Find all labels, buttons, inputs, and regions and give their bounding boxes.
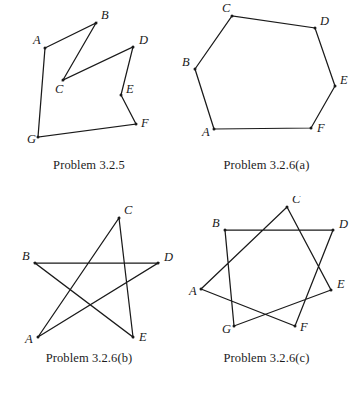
vertex-label-a: A bbox=[188, 284, 197, 298]
vertex-label-d: D bbox=[163, 250, 173, 264]
vertex-point-a bbox=[44, 47, 47, 50]
vertex-point-c bbox=[286, 206, 289, 209]
vertex-label-d: D bbox=[319, 14, 329, 28]
vertex-point-g bbox=[37, 136, 40, 139]
vertex-point-e bbox=[330, 289, 333, 292]
vertex-label-e: E bbox=[336, 277, 345, 291]
vertex-point-a bbox=[37, 336, 40, 339]
vertex-label-e: E bbox=[339, 73, 348, 87]
vertex-point-e bbox=[132, 336, 135, 339]
figure-outline bbox=[201, 207, 333, 326]
vertex-point-f bbox=[294, 325, 297, 328]
vertex-label-b: B bbox=[101, 8, 109, 22]
vertex-point-f bbox=[310, 127, 313, 130]
figure-outline bbox=[35, 218, 158, 337]
vertex-label-b: B bbox=[22, 249, 30, 263]
vertex-point-b bbox=[224, 229, 227, 232]
vertex-label-c: C bbox=[292, 196, 301, 206]
vertex-point-d bbox=[132, 46, 135, 49]
vertex-label-c: C bbox=[55, 82, 64, 96]
vertex-label-b: B bbox=[182, 55, 190, 69]
vertex-point-d bbox=[332, 229, 335, 232]
vertex-point-b bbox=[95, 22, 98, 25]
figure-grid: ABCDEFG Problem 3.2.5 ABCDEF Problem 3.2… bbox=[0, 0, 355, 393]
vertex-label-a: A bbox=[32, 33, 41, 47]
vertex-point-f bbox=[135, 123, 138, 126]
vertex-label-c: C bbox=[222, 1, 231, 15]
vertex-point-a bbox=[213, 128, 216, 131]
vertex-label-c: C bbox=[124, 203, 133, 217]
figure-caption-2: Problem 3.2.6(a) bbox=[178, 158, 355, 173]
vertex-point-e bbox=[120, 94, 123, 97]
figure-problem-3-2-5: ABCDEFG Problem 3.2.5 bbox=[0, 0, 178, 196]
vertex-label-g: G bbox=[222, 322, 231, 336]
vertex-point-b bbox=[194, 68, 197, 71]
vertex-point-b bbox=[34, 262, 37, 265]
vertex-label-f: F bbox=[316, 121, 325, 135]
figure-caption-4: Problem 3.2.6(c) bbox=[178, 351, 355, 366]
vertex-point-c bbox=[231, 15, 234, 18]
vertex-label-a: A bbox=[24, 332, 33, 346]
figure-outline bbox=[38, 23, 136, 137]
figure-problem-3-2-6-b: ABCDE Problem 3.2.6(b) bbox=[0, 196, 178, 393]
vertex-label-d: D bbox=[338, 217, 348, 231]
figure-outline bbox=[195, 16, 335, 129]
vertex-point-a bbox=[200, 288, 203, 291]
figure-problem-3-2-6-a: ABCDEF Problem 3.2.6(a) bbox=[178, 0, 355, 196]
vertex-point-g bbox=[233, 325, 236, 328]
figure-caption-1: Problem 3.2.5 bbox=[0, 158, 178, 173]
vertex-label-g: G bbox=[27, 132, 36, 146]
figure-problem-3-2-6-c: ABCDEFG Problem 3.2.6(c) bbox=[178, 196, 355, 393]
figure-caption-3: Problem 3.2.6(b) bbox=[0, 351, 178, 366]
vertex-point-e bbox=[334, 85, 337, 88]
vertex-point-c bbox=[118, 217, 121, 220]
vertex-label-a: A bbox=[201, 125, 210, 139]
vertex-label-e: E bbox=[125, 82, 134, 96]
vertex-label-f: F bbox=[140, 116, 149, 130]
vertex-label-e: E bbox=[138, 330, 147, 344]
vertex-label-d: D bbox=[138, 33, 148, 47]
vertex-point-d bbox=[314, 27, 317, 30]
vertex-label-b: B bbox=[212, 216, 220, 230]
vertex-label-f: F bbox=[299, 320, 308, 334]
vertex-point-d bbox=[157, 262, 160, 265]
